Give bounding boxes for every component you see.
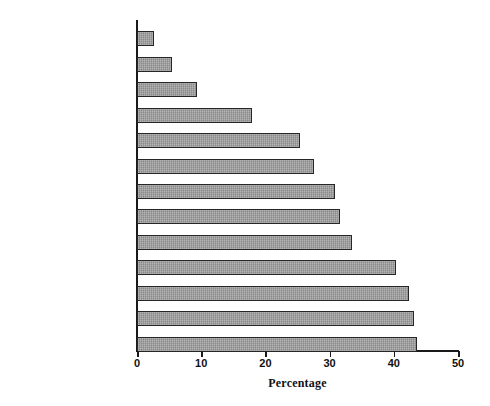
bar	[137, 31, 154, 46]
bar	[137, 209, 340, 224]
bar	[137, 286, 409, 301]
bar-row: NETHERLANDS	[137, 152, 458, 180]
x-axis-tick-label: 30	[310, 358, 350, 369]
x-axis-tick-label: 20	[245, 358, 285, 369]
x-axis-title: Percentage	[137, 376, 458, 391]
bar-chart: JAPANGREECEIRELANDSPAINGERMANYNETHERLAND…	[0, 0, 490, 406]
plot-area: JAPANGREECEIRELANDSPAINGERMANYNETHERLAND…	[137, 20, 458, 351]
bar	[137, 159, 314, 174]
bar	[137, 82, 197, 97]
bar	[137, 184, 335, 199]
x-axis-tick-label: 50	[438, 358, 478, 369]
bar-row: JAPAN	[137, 25, 458, 53]
bar	[137, 108, 252, 123]
x-axis-tick-label: 0	[117, 358, 157, 369]
x-axis-tick-label: 40	[374, 358, 414, 369]
bar-row: IRELAND	[137, 76, 458, 104]
bar	[137, 133, 300, 148]
bar-row: AUSTRALIA	[137, 178, 458, 206]
bar	[137, 337, 417, 352]
bar-row: ENGLAND & WALES	[137, 254, 458, 282]
bar	[137, 235, 352, 250]
bar-row: NEW ZEALAND	[137, 305, 458, 333]
bar	[137, 57, 172, 72]
bar-row: UNITED STATES	[137, 229, 458, 257]
x-axis-tick-label: 10	[181, 358, 221, 369]
bar-row: IRELAND	[137, 203, 458, 231]
bar-row: GERMANY	[137, 127, 458, 155]
bar	[137, 260, 396, 275]
bar-row: GREECE	[137, 50, 458, 78]
bar	[137, 311, 414, 326]
bar-row: DENMARK	[137, 330, 458, 358]
bar-row: FRANCE	[137, 280, 458, 308]
bar-row: SPAIN	[137, 101, 458, 129]
